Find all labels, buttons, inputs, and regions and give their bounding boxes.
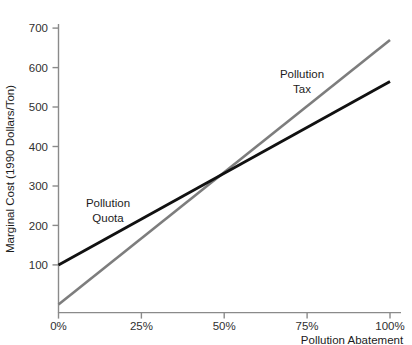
annotation-pollution-tax: Pollution Tax — [280, 68, 324, 95]
x-axis-tick-labels: 0% 25% 50% 75% 100% — [50, 320, 405, 332]
x-tick-label: 0% — [50, 320, 67, 332]
x-tick-label: 100% — [375, 320, 404, 332]
annotation-pollution-quota-line2: Quota — [92, 212, 124, 224]
y-tick-label: 200 — [29, 220, 48, 232]
annotation-pollution-quota: Pollution Quota — [86, 197, 130, 224]
y-tick-label: 600 — [29, 62, 48, 74]
y-tick-label: 500 — [29, 101, 48, 113]
y-tick-label: 700 — [29, 22, 48, 34]
y-tick-label: 400 — [29, 141, 48, 153]
chart-figure: 700 600 500 400 300 200 100 0% 25% 50% 7… — [0, 0, 412, 345]
y-tick-label: 100 — [29, 259, 48, 271]
y-axis-title: Marginal Cost (1990 Dollars/Ton) — [4, 85, 16, 253]
x-tick-label: 25% — [130, 320, 153, 332]
marginal-cost-line-chart: 700 600 500 400 300 200 100 0% 25% 50% 7… — [0, 0, 412, 345]
series-line-pollution-quota — [59, 82, 391, 266]
y-axis-ticks — [53, 28, 59, 265]
y-tick-label: 300 — [29, 180, 48, 192]
x-axis-ticks — [59, 313, 391, 319]
y-axis-tick-labels: 700 600 500 400 300 200 100 — [29, 22, 48, 271]
annotation-pollution-tax-line1: Pollution — [280, 68, 324, 80]
x-tick-label: 75% — [296, 320, 319, 332]
annotation-pollution-quota-line1: Pollution — [86, 197, 130, 209]
x-tick-label: 50% — [213, 320, 236, 332]
annotation-pollution-tax-line2: Tax — [293, 83, 311, 95]
x-axis-title: Pollution Abatement — [301, 334, 404, 345]
